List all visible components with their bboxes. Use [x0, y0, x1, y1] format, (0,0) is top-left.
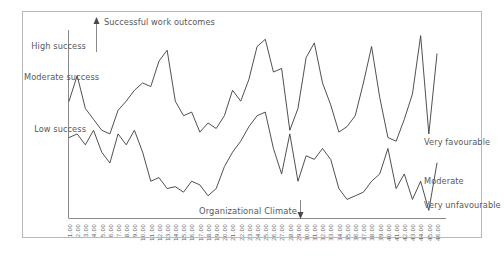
y-label-low-success: Low success: [24, 124, 86, 135]
right-label-very-unfavourable: Very unfavourable: [424, 200, 498, 211]
series-line-successful-work-outcomes: [69, 36, 437, 142]
series-line-organizational-climate: [69, 112, 437, 210]
chart-figure: High success Moderate success Low succes…: [0, 0, 504, 262]
y-label-moderate-success: Moderate success: [24, 72, 86, 83]
right-label-very-favourable: Very favourable: [424, 137, 498, 148]
annotation-successful-work-outcomes: Successful work outcomes: [104, 17, 196, 28]
annotation-organizational-climate: Organizational Climate: [199, 206, 309, 217]
arrow-up-icon: [94, 17, 100, 52]
y-label-high-success: High success: [24, 41, 86, 52]
right-label-moderate: Moderate: [424, 176, 498, 187]
